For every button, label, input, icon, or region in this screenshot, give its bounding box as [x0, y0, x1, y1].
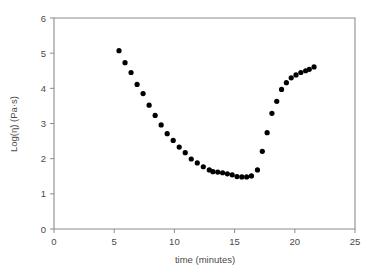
- data-point: [230, 172, 235, 177]
- data-point: [147, 103, 152, 108]
- x-tick-label: 15: [229, 236, 240, 247]
- data-point: [183, 150, 188, 155]
- scatter-plot: 0510152025 0123456 time (minutes) Log(η)…: [0, 0, 376, 270]
- y-tick-label: 0: [41, 224, 46, 235]
- data-point: [244, 174, 249, 179]
- data-point: [279, 87, 284, 92]
- y-tick-label: 1: [41, 188, 46, 199]
- data-point: [260, 149, 265, 154]
- y-tick-label: 2: [41, 153, 46, 164]
- data-point: [220, 170, 225, 175]
- data-point: [116, 48, 121, 53]
- data-point: [128, 70, 133, 75]
- data-point: [289, 75, 294, 80]
- x-tick-label: 10: [169, 236, 180, 247]
- x-axis-title: time (minutes): [175, 254, 235, 265]
- data-point: [249, 173, 254, 178]
- y-tick-label: 3: [41, 118, 46, 129]
- y-axis-title: Log(η) (Pa·s): [8, 96, 19, 152]
- data-point: [298, 70, 303, 75]
- data-point: [255, 167, 260, 172]
- x-tick-label: 25: [350, 236, 361, 247]
- data-point: [293, 72, 298, 77]
- data-point: [195, 160, 200, 165]
- data-point: [265, 130, 270, 135]
- data-point: [201, 164, 206, 169]
- y-tick-label: 4: [41, 83, 46, 94]
- data-point: [215, 169, 220, 174]
- data-point: [225, 171, 230, 176]
- data-point: [171, 138, 176, 143]
- data-point: [307, 67, 312, 72]
- data-points: [116, 48, 316, 179]
- plot-border: [54, 18, 355, 229]
- data-point: [140, 91, 145, 96]
- data-point: [122, 60, 127, 65]
- data-point: [177, 144, 182, 149]
- y-tick-label: 6: [41, 13, 46, 24]
- data-point: [165, 131, 170, 136]
- x-axis-ticks: 0510152025: [51, 229, 360, 247]
- x-tick-label: 5: [112, 236, 117, 247]
- data-point: [269, 111, 274, 116]
- x-tick-label: 0: [51, 236, 56, 247]
- data-point: [134, 82, 139, 87]
- plot-frame: [54, 18, 355, 229]
- data-point: [284, 80, 289, 85]
- chart-container: 0510152025 0123456 time (minutes) Log(η)…: [0, 0, 376, 270]
- data-point: [153, 113, 158, 118]
- data-point: [210, 169, 215, 174]
- data-point: [311, 64, 316, 69]
- data-point: [239, 174, 244, 179]
- data-point: [274, 99, 279, 104]
- x-tick-label: 20: [290, 236, 301, 247]
- data-point: [159, 122, 164, 127]
- data-point: [234, 174, 239, 179]
- y-tick-label: 5: [41, 48, 46, 59]
- data-point: [189, 156, 194, 161]
- y-axis-ticks: 0123456: [41, 13, 54, 235]
